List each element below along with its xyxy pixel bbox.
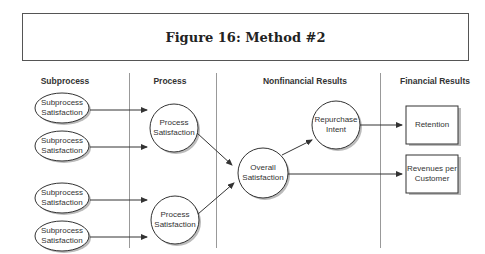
retention-node: Retention: [406, 106, 458, 144]
subprocess-node-3: SubprocessSatisfaction: [35, 187, 89, 209]
process-node-1: ProcessSatisfaction: [150, 117, 198, 139]
subprocess-node-1: SubprocessSatisfaction: [35, 97, 89, 119]
overall-satisfaction-node: OverallSatisfaction: [238, 162, 288, 184]
repurchase-intent-node: RepurchaseIntent: [312, 114, 360, 136]
subprocess-node-2: SubprocessSatisfaction: [35, 135, 89, 157]
subprocess-node-4: SubprocessSatisfaction: [35, 225, 89, 247]
revenues-per-customer-node: Revenues perCustomer: [406, 155, 458, 193]
process-node-2: ProcessSatisfaction: [151, 209, 199, 231]
